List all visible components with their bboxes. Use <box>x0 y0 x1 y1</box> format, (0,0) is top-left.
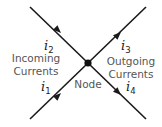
current-label-i3: i3 <box>121 38 131 55</box>
kcl-node-diagram: i2 i1 i3 i4 Incoming Currents Outgoing C… <box>0 0 162 127</box>
node-dot-icon <box>84 59 91 66</box>
current-label-i4: i4 <box>126 79 136 96</box>
current-label-i1: i1 <box>41 79 51 96</box>
incoming-label-line1: Incoming <box>12 52 60 64</box>
outgoing-label-line2: Currents <box>109 68 154 80</box>
outgoing-label-line1: Outgoing <box>107 55 155 67</box>
incoming-label-line2: Currents <box>14 65 59 77</box>
node-label: Node <box>74 78 101 90</box>
diagram-svg: i2 i1 i3 i4 Incoming Currents Outgoing C… <box>0 0 162 127</box>
